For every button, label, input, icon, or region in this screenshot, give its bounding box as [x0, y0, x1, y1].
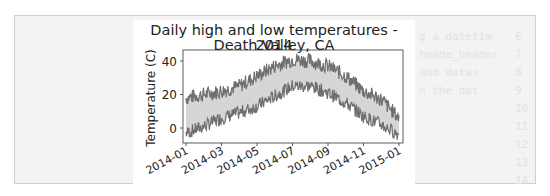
- y-tick-label: 0: [169, 122, 177, 136]
- ghost-line: heade_header: [419, 46, 498, 64]
- ghost-line-number: 7: [515, 46, 522, 64]
- y-axis-label: Temperature (C): [144, 49, 158, 148]
- ghost-line: and datas: [419, 64, 479, 82]
- y-tick-label: 20: [162, 88, 177, 102]
- ghost-line: n the dat: [419, 82, 479, 100]
- chart-plot: Temperature (C) 020402014-012014-032014-…: [133, 20, 415, 192]
- ghost-line-number: 6: [515, 28, 522, 46]
- ghost-line-number: 12: [515, 136, 528, 154]
- ghost-line-number: 9: [515, 82, 522, 100]
- ghost-line-number: 13: [515, 154, 528, 172]
- ghost-line-number: 11: [515, 118, 528, 136]
- ghost-line-number: 14: [515, 172, 528, 190]
- plot-area: [186, 54, 399, 140]
- ghost-line: g a datetim: [419, 28, 492, 46]
- chart-figure: Daily high and low temperatures - 2014 D…: [133, 20, 415, 192]
- ghost-line-number: 10: [515, 100, 528, 118]
- y-tick-label: 40: [162, 55, 177, 69]
- ghost-line-number: 8: [515, 64, 522, 82]
